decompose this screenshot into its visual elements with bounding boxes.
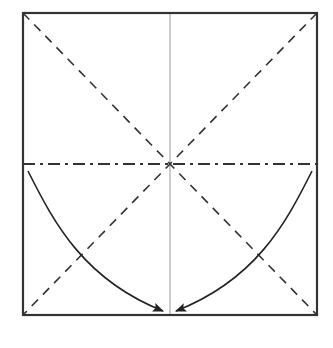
origami-diagram bbox=[0, 0, 333, 348]
diagram-canvas bbox=[0, 0, 333, 348]
